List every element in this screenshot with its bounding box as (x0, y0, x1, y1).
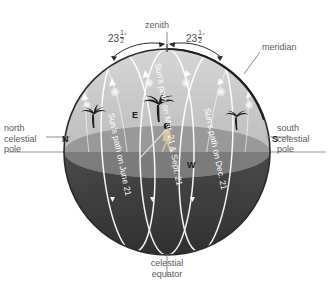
angle-left-whole: 23 (108, 33, 119, 44)
label-north-celestial-pole: north celestial pole (4, 123, 60, 155)
label-zenith: zenith (145, 20, 169, 31)
cardinal-point-west: W (187, 160, 196, 170)
label-angle-right: 2312° (186, 30, 205, 44)
angle-right-denominator: 2 (198, 38, 203, 45)
north-pole-line-3: pole (4, 144, 21, 154)
angle-right-whole: 23 (186, 33, 197, 44)
cardinal-point-south: S (272, 134, 278, 144)
south-pole-line-1: south (277, 123, 299, 133)
north-pole-line-2: celestial (4, 134, 37, 144)
label-meridian: meridian (262, 42, 297, 53)
label-celestial-equator: celestial equator (122, 258, 212, 280)
celestial-equator-line-1: celestial (151, 258, 184, 268)
celestial-equator-line-2: equator (152, 269, 183, 279)
south-pole-line-3: pole (277, 144, 294, 154)
label-angle-left: 2312° (108, 30, 127, 44)
cardinal-point-north: N (62, 134, 69, 144)
angle-left-degree: ° (124, 32, 126, 38)
south-pole-line-2: celestial (277, 134, 310, 144)
label-south-celestial-pole: south celestial pole (277, 123, 335, 155)
meridian-leader (244, 52, 260, 74)
angle-left-denominator: 2 (120, 38, 125, 45)
celestial-sphere-diagram: zenith meridian north celestial pole sou… (0, 0, 335, 288)
north-pole-line-1: north (4, 123, 25, 133)
angle-right-degree: ° (202, 32, 204, 38)
cardinal-point-east: E (132, 110, 138, 120)
